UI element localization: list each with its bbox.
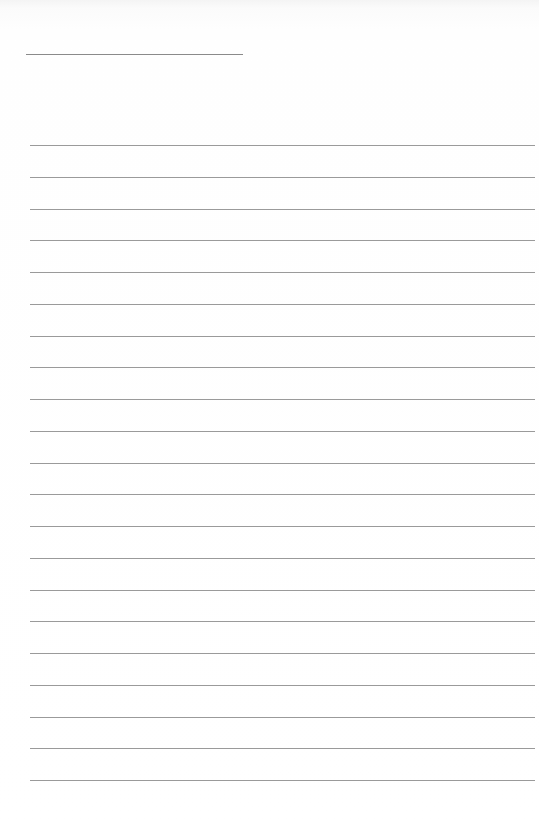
- ruled-line: [30, 367, 535, 368]
- ruled-line: [30, 558, 535, 559]
- ruled-line: [30, 209, 535, 210]
- ruled-line: [30, 748, 535, 749]
- ruled-line: [30, 177, 535, 178]
- ruled-line: [30, 526, 535, 527]
- ruled-line: [30, 304, 535, 305]
- ruled-line: [30, 399, 535, 400]
- ruled-lines: [0, 0, 539, 831]
- ruled-line: [30, 653, 535, 654]
- ruled-line: [30, 145, 535, 146]
- ruled-line: [30, 494, 535, 495]
- ruled-line: [30, 431, 535, 432]
- ruled-line: [30, 590, 535, 591]
- ruled-line: [30, 717, 535, 718]
- ruled-line: [30, 621, 535, 622]
- ruled-line: [30, 685, 535, 686]
- ruled-line: [30, 780, 535, 781]
- ruled-line: [30, 272, 535, 273]
- ruled-line: [30, 463, 535, 464]
- ruled-line: [30, 240, 535, 241]
- lined-paper-page: [0, 0, 539, 831]
- ruled-line: [30, 336, 535, 337]
